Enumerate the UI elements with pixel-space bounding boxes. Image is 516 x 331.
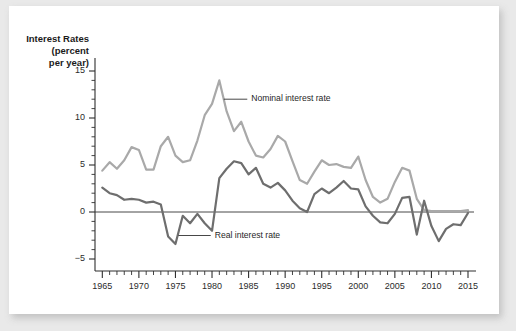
y-tick-label: 5	[59, 159, 85, 169]
figure-container: Interest Rates (percent per year) −50510…	[0, 0, 516, 331]
x-tick-label: 1985	[229, 281, 269, 291]
x-tick-label: 1965	[82, 281, 122, 291]
x-tick-label: 1990	[265, 281, 305, 291]
y-tick-label: 15	[59, 65, 85, 75]
x-tick-label: 1975	[155, 281, 195, 291]
y-tick-label: 10	[59, 112, 85, 122]
series-annotation-label: Nominal interest rate	[251, 93, 330, 103]
x-tick-label: 2005	[375, 281, 415, 291]
x-tick-label: 1980	[192, 281, 232, 291]
x-tick-label: 1970	[119, 281, 159, 291]
series-annotation-label: Real interest rate	[215, 230, 280, 240]
y-tick-label: 0	[59, 206, 85, 216]
x-tick-label: 2015	[448, 281, 488, 291]
x-tick-label: 1995	[302, 281, 342, 291]
chart-card: Interest Rates (percent per year) −50510…	[9, 6, 499, 314]
x-tick-label: 2000	[338, 281, 378, 291]
x-tick-label: 2010	[411, 281, 451, 291]
series-line-real	[102, 161, 468, 244]
y-tick-label: −5	[59, 253, 85, 263]
